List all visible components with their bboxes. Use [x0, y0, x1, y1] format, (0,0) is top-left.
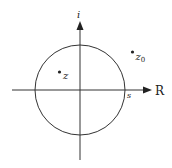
radius-label: s	[127, 91, 131, 100]
imaginary-axis: i	[77, 9, 84, 160]
imaginary-axis-label: i	[77, 9, 80, 20]
point-z0: z0	[131, 50, 145, 64]
real-axis-arrow-icon	[143, 87, 152, 94]
imaginary-axis-arrow-icon	[77, 21, 84, 30]
point-z-dot	[58, 70, 61, 73]
point-z0-label: z0	[135, 51, 146, 64]
point-z-label: z	[62, 70, 69, 81]
complex-plane-diagram: R i s z z0	[0, 0, 172, 168]
real-axis-label: R	[155, 84, 165, 98]
point-z0-label-sub: 0	[141, 56, 145, 64]
point-z0-dot	[131, 50, 134, 53]
point-z: z	[58, 70, 69, 81]
